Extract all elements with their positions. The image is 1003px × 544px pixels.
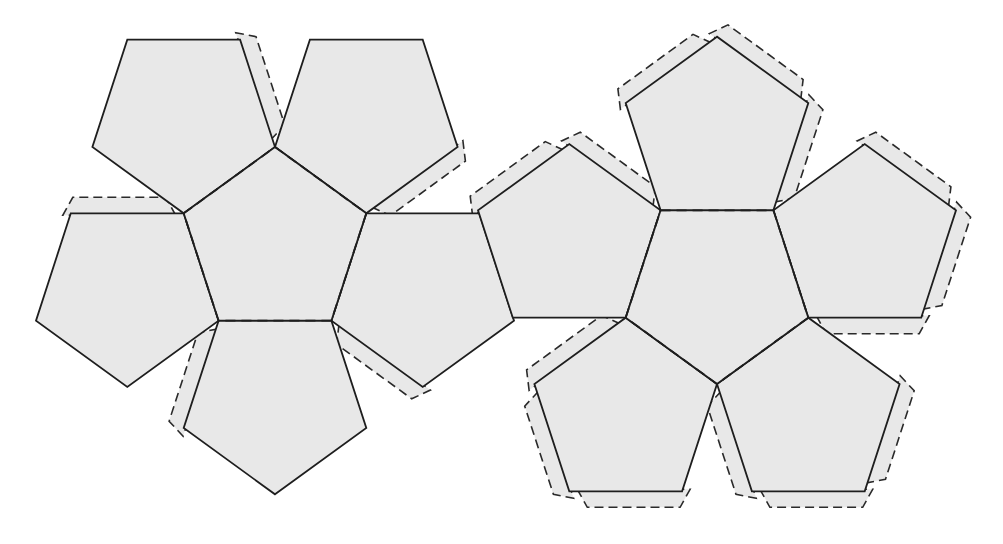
left-petal-face-2 <box>184 321 367 495</box>
dodecahedron-net <box>0 0 1003 544</box>
